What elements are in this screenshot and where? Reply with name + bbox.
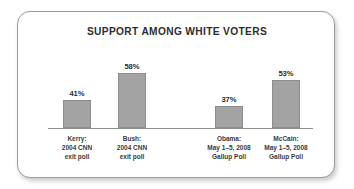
bar-category-label: Bush:2004 CNNexit poll (100, 134, 164, 162)
bar-category-label-line: McCain: (254, 134, 318, 143)
bar-category-label-line: Obama: (197, 134, 261, 143)
bar-category-label-line: Bush: (100, 134, 164, 143)
bar-value-label: 41% (49, 89, 105, 98)
bar-category-label-line: May 1–5, 2008 (197, 143, 261, 152)
bar-category-label-line: Gallup Poll (254, 152, 318, 161)
bar-category-label-line: exit poll (100, 152, 164, 161)
bar (118, 73, 146, 128)
category-axis-line (48, 128, 313, 129)
bar-category-label-line: 2004 CNN (100, 143, 164, 152)
bar-value-label: 53% (258, 69, 314, 78)
bar-value-label: 58% (104, 62, 160, 71)
bar-category-label: McCain:May 1–5, 2008Gallup Poll (254, 134, 318, 162)
bar (272, 80, 300, 128)
bar (215, 106, 243, 128)
bar-category-label-line: May 1–5, 2008 (254, 143, 318, 152)
bar-category-label: Obama:May 1–5, 2008Gallup Poll (197, 134, 261, 162)
bar-value-label: 37% (201, 95, 257, 104)
bar-category-label-line: Gallup Poll (197, 152, 261, 161)
chart-title: SUPPORT AMONG WHITE VOTERS (0, 26, 354, 37)
bar (63, 100, 91, 128)
chart-figure: SUPPORT AMONG WHITE VOTERS 41%Kerry:2004… (0, 0, 354, 189)
